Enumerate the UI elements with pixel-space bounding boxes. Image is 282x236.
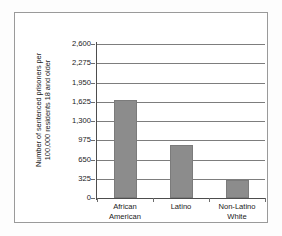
x-axis-tick-label: Latino	[153, 202, 209, 232]
chart-figure: Number of sentenced prisoners per 100,00…	[0, 0, 282, 236]
x-axis-tick-mark	[153, 198, 154, 202]
y-axis-tick-label: 1,950	[53, 79, 91, 87]
y-axis-tick-mark	[91, 102, 95, 103]
x-axis-tick-mark	[97, 198, 98, 202]
x-axis-tick-label-line-1: African	[97, 202, 153, 212]
plot-area	[97, 44, 265, 198]
y-axis-tick-mark	[91, 63, 95, 64]
x-axis-tick-label-line-1: Non-Latino	[209, 202, 265, 212]
y-axis-tick-mark	[91, 140, 95, 141]
x-axis-tick-label-line-2: American	[97, 212, 153, 222]
x-axis-tick-labels: AfricanAmericanLatinoNon-LatinoWhite	[97, 202, 265, 232]
y-axis-tick-label: 1,625	[53, 98, 91, 106]
x-axis-tick-mark	[209, 198, 210, 202]
y-axis-tick-mark	[91, 198, 95, 199]
y-axis-tick-label: 975	[53, 136, 91, 144]
bar	[226, 180, 249, 198]
y-axis-tick-mark	[91, 160, 95, 161]
bar-series	[97, 44, 265, 198]
y-axis-tick-label: 2,600	[53, 40, 91, 48]
y-axis-tick-label: 0	[53, 194, 91, 202]
y-axis-tick-label: 650	[53, 156, 91, 164]
bar	[170, 145, 193, 198]
y-axis-tick-label: 2,275	[53, 59, 91, 67]
y-axis-label-line-2: 100,000 residents 18 and older	[43, 60, 52, 160]
bar	[114, 100, 137, 198]
x-axis-tick-label: Non-LatinoWhite	[209, 202, 265, 232]
y-axis-tick-mark	[91, 121, 95, 122]
y-axis-tick-mark	[91, 44, 95, 45]
y-axis-tick-label: 325	[53, 175, 91, 183]
x-axis-tick-label-line-1: Latino	[153, 202, 209, 212]
x-axis-tick-label: AfricanAmerican	[97, 202, 153, 232]
y-axis-tick-mark	[91, 179, 95, 180]
x-axis-tick-label-line-2: White	[209, 212, 265, 222]
y-axis-tick-labels: 03256509751,3001,6251,9502,2752,600	[53, 44, 91, 198]
x-axis-tick-mark	[265, 198, 266, 202]
chart-frame: Number of sentenced prisoners per 100,00…	[14, 12, 268, 223]
x-axis-baseline	[97, 198, 265, 199]
y-axis-tick-mark	[91, 83, 95, 84]
y-axis-label-line-1: Number of sentenced prisoners per	[34, 53, 43, 167]
y-axis-tick-label: 1,300	[53, 117, 91, 125]
